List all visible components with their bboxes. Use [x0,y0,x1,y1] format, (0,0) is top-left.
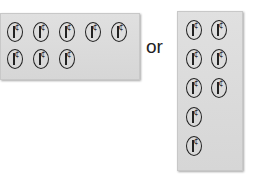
penny-coin-icon: ¢ [7,22,23,42]
cent-sign-icon: ¢ [194,22,199,30]
penny-coin-icon: ¢ [211,20,227,40]
penny-coin-icon: ¢ [59,49,75,69]
cent-sign-icon: ¢ [194,80,199,88]
penny-coin-icon: ¢ [33,49,49,69]
cent-sign-icon: ¢ [15,51,20,59]
or-label: or [146,36,163,58]
penny-coin-icon: ¢ [186,20,202,40]
penny-coin-icon: ¢ [59,22,75,42]
penny-coin-icon: ¢ [211,49,227,69]
penny-coin-icon: ¢ [7,49,23,69]
cent-sign-icon: ¢ [93,24,98,32]
cent-sign-icon: ¢ [219,51,224,59]
cent-sign-icon: ¢ [67,51,72,59]
cent-sign-icon: ¢ [194,138,199,146]
penny-coin-icon: ¢ [186,107,202,127]
coin-tray-horizontal: ¢¢¢¢¢¢¢¢ [0,13,140,80]
penny-coin-icon: ¢ [111,22,127,42]
cent-sign-icon: ¢ [219,22,224,30]
cent-sign-icon: ¢ [194,51,199,59]
cent-sign-icon: ¢ [219,80,224,88]
penny-coin-icon: ¢ [186,136,202,156]
cent-sign-icon: ¢ [41,51,46,59]
penny-coin-icon: ¢ [211,78,227,98]
penny-coin-icon: ¢ [85,22,101,42]
cent-sign-icon: ¢ [15,24,20,32]
cent-sign-icon: ¢ [119,24,124,32]
cent-sign-icon: ¢ [67,24,72,32]
penny-coin-icon: ¢ [186,78,202,98]
cent-sign-icon: ¢ [41,24,46,32]
penny-coin-icon: ¢ [33,22,49,42]
penny-coin-icon: ¢ [186,49,202,69]
cent-sign-icon: ¢ [194,109,199,117]
coin-tray-vertical: ¢¢¢¢¢¢¢¢ [177,11,243,171]
